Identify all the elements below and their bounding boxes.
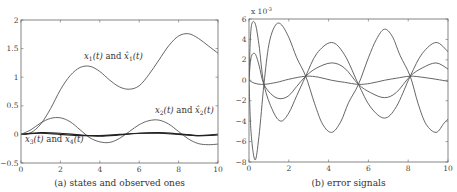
x-tick-label: 8 bbox=[406, 164, 411, 173]
y-tick-label: 0 bbox=[242, 76, 247, 85]
y-tick-label: 1 bbox=[14, 73, 19, 82]
plot-frame-b bbox=[249, 19, 448, 162]
y-scale-base: x 10 bbox=[251, 7, 267, 16]
y-tick-label: 0.5 bbox=[7, 101, 19, 110]
figure-canvas: 0246810−0.500.511.52 x1(t) and x̂1(t)x2(… bbox=[0, 0, 457, 192]
axis-ticks-b: 0246810−8−6−4−20246 bbox=[235, 15, 453, 173]
plot-area-b bbox=[249, 21, 448, 160]
x-tick-label: 0 bbox=[19, 165, 24, 174]
curve-annotation: x1(t) and x̂1(t) bbox=[84, 51, 143, 62]
y-tick-label: −4 bbox=[235, 117, 246, 126]
x-tick-label: 2 bbox=[286, 164, 291, 173]
y-tick-label: −2 bbox=[235, 96, 246, 105]
series-line bbox=[249, 21, 448, 121]
chart-panel-a: 0246810−0.500.511.52 x1(t) and x̂1(t)x2(… bbox=[0, 16, 223, 188]
y-tick-label: 2 bbox=[242, 55, 247, 64]
x-tick-label: 10 bbox=[443, 164, 453, 173]
axis-ticks-a: 0246810−0.500.511.52 bbox=[0, 16, 223, 174]
y-tick-label: −6 bbox=[235, 137, 246, 146]
series-line bbox=[249, 76, 448, 84]
caption-b: (b) error signals bbox=[311, 178, 385, 188]
x-tick-label: 8 bbox=[176, 165, 181, 174]
x-tick-label: 4 bbox=[326, 164, 331, 173]
y-tick-label: 1.5 bbox=[7, 44, 19, 53]
y-scale-label: x 10-3 bbox=[251, 6, 272, 17]
x-tick-label: 6 bbox=[366, 164, 371, 173]
series-line bbox=[21, 34, 218, 135]
x-tick-label: 2 bbox=[58, 165, 63, 174]
curve-annotation: x3(t) and x4(t) bbox=[25, 134, 84, 145]
x-tick-label: 10 bbox=[213, 165, 223, 174]
x-tick-label: 4 bbox=[97, 165, 102, 174]
curve-annotation: x2(t) and x̂2(t) bbox=[155, 105, 214, 116]
y-tick-label: 2 bbox=[14, 16, 19, 25]
chart-panel-b: 0246810−8−6−4−20246 x 10-3 (b) error sig… bbox=[235, 6, 453, 189]
x-tick-label: 0 bbox=[247, 164, 252, 173]
caption-a: (a) states and observed ones bbox=[54, 178, 185, 188]
y-tick-label: 6 bbox=[242, 15, 247, 24]
y-tick-label: 0 bbox=[14, 130, 19, 139]
y-tick-label: 4 bbox=[242, 35, 247, 44]
y-tick-label: −0.5 bbox=[0, 159, 18, 168]
x-tick-label: 6 bbox=[137, 165, 142, 174]
y-scale-exponent: -3 bbox=[267, 6, 272, 12]
annotations-a: x1(t) and x̂1(t)x2(t) and x̂2(t)x3(t) an… bbox=[25, 51, 214, 145]
series-line bbox=[249, 23, 448, 160]
y-tick-label: −8 bbox=[235, 158, 246, 167]
